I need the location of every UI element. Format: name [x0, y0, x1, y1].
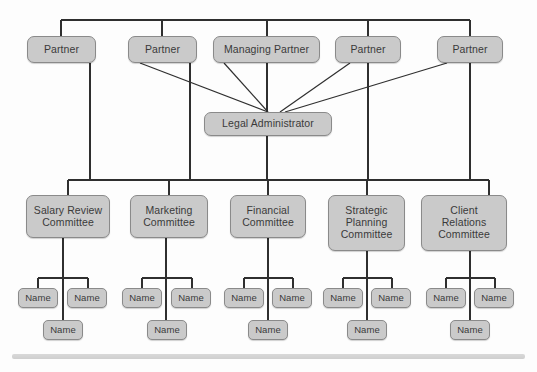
node-member-1-bottom[interactable]: Name	[43, 320, 83, 340]
node-member-2-right[interactable]: Name	[171, 288, 211, 308]
node-salary-review-committee[interactable]: Salary Review Committee	[26, 195, 110, 238]
node-partner-4[interactable]: Partner	[335, 36, 401, 63]
node-strategic-planning-committee[interactable]: Strategic Planning Committee	[328, 195, 405, 251]
node-member-3-left[interactable]: Name	[224, 288, 264, 308]
node-member-2-left[interactable]: Name	[122, 288, 162, 308]
node-marketing-committee[interactable]: Marketing Committee	[130, 195, 208, 238]
edge-managing-partner-to-administrator	[224, 63, 268, 112]
node-member-1-right[interactable]: Name	[67, 288, 107, 308]
edge-partner-4-to-administrator	[280, 63, 350, 112]
node-member-2-bottom[interactable]: Name	[147, 320, 187, 340]
node-member-4-right[interactable]: Name	[371, 288, 411, 308]
node-member-3-right[interactable]: Name	[272, 288, 312, 308]
node-financial-committee[interactable]: Financial Committee	[230, 195, 306, 238]
org-chart-canvas: Partner Partner Managing Partner Partner…	[0, 0, 537, 372]
edge-partner-2-to-administrator	[140, 63, 268, 112]
node-partner-2[interactable]: Partner	[128, 36, 197, 63]
node-managing-partner[interactable]: Managing Partner	[213, 36, 320, 63]
edge-partner-5-to-administrator	[285, 63, 447, 112]
node-member-4-left[interactable]: Name	[323, 288, 363, 308]
node-member-5-left[interactable]: Name	[426, 288, 466, 308]
node-member-3-bottom[interactable]: Name	[248, 320, 288, 340]
node-member-5-bottom[interactable]: Name	[450, 320, 490, 340]
node-legal-administrator[interactable]: Legal Administrator	[204, 112, 332, 136]
footer-divider-bar	[12, 354, 525, 359]
node-member-1-left[interactable]: Name	[18, 288, 58, 308]
node-partner-1[interactable]: Partner	[27, 36, 96, 63]
node-partner-5[interactable]: Partner	[437, 36, 503, 63]
node-member-4-bottom[interactable]: Name	[347, 320, 387, 340]
node-client-relations-committee[interactable]: Client Relations Committee	[421, 195, 507, 251]
node-member-5-right[interactable]: Name	[474, 288, 514, 308]
